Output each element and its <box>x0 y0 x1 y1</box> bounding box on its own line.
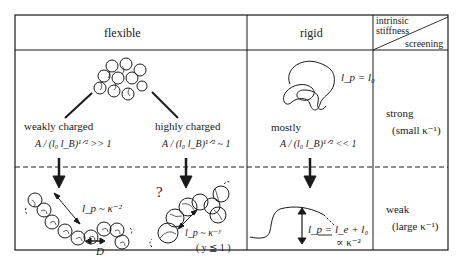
label-mostly: mostly <box>271 122 301 133</box>
question-mark: ? <box>156 185 163 200</box>
exponent-note: ( y ≦ 1 ) <box>196 243 231 253</box>
down-arrow-icon <box>53 158 65 188</box>
persistence-length-weak: l_p ~ κ⁻² <box>82 203 122 214</box>
coiled-polyelectrolyte-icon <box>94 58 147 100</box>
label-highly-charged: highly charged <box>155 121 220 132</box>
row-label-weak: weak <box>386 204 409 215</box>
column-header-rigid: rigid <box>300 27 323 39</box>
corner-header-stiffness: stiffness <box>376 26 409 36</box>
condition-highly-charged: A / (l₀ l_B)¹ᐟ² ~ 1 <box>162 139 230 149</box>
condition-rigid: A / (l₀ l_B)¹ᐟ² << 1 <box>280 139 357 149</box>
tangled-rigid-chain-icon <box>284 61 335 110</box>
diagram-graphics <box>0 0 463 273</box>
condition-weakly-charged: A / (l₀ l_B)¹ᐟ² >> 1 <box>35 139 112 149</box>
persistence-length-high: l_p ~ κ⁻ʸ <box>185 228 221 238</box>
rigid-strong-relation: l_p = l₀ <box>341 72 375 83</box>
row-sublabel-strong: (small κ⁻¹) <box>392 125 441 136</box>
blob-size-label: D <box>96 246 104 257</box>
table-grid <box>15 15 448 250</box>
column-header-flexible: flexible <box>104 27 141 39</box>
corner-header-screening: screening <box>405 39 443 49</box>
rigid-weak-scaling: ∝ κ⁻² <box>336 237 361 248</box>
down-arrow-icon <box>180 158 192 188</box>
row-label-strong: strong <box>386 108 414 119</box>
row-sublabel-weak: (large κ⁻¹) <box>392 221 439 232</box>
label-weakly-charged: weakly charged <box>24 121 93 132</box>
rigid-weak-relation: l_p = l_e + l₀ <box>308 224 368 235</box>
branch-lines <box>65 92 178 118</box>
down-arrow-icon <box>304 158 316 188</box>
